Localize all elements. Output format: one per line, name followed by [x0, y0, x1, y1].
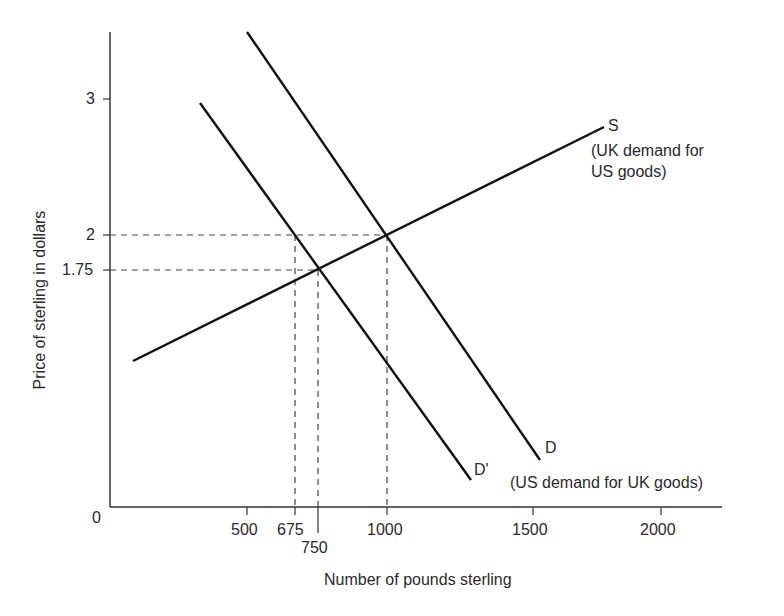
y-tick-label-3: 3 [86, 91, 95, 107]
s-curve-desc-line1: (UK demand for [591, 143, 704, 159]
x-tick-label-1500: 1500 [512, 522, 548, 538]
y-tick-label-2: 2 [86, 227, 95, 243]
y-tick-label-1-75: 1.75 [62, 262, 93, 278]
y-axis-title: Price of sterling in dollars [31, 211, 49, 390]
supply-line-s [133, 127, 604, 361]
x-axis-title: Number of pounds sterling [324, 572, 512, 588]
origin-label: 0 [92, 510, 101, 526]
x-tick-label-500: 500 [231, 522, 258, 538]
s-curve-desc-line2: US goods) [591, 164, 667, 180]
demand-line-d [247, 32, 540, 460]
d-prime-curve-label: D' [474, 462, 489, 478]
x-tick-label-675: 675 [277, 522, 304, 538]
x-tick-label-1000: 1000 [367, 522, 403, 538]
d-curve-desc: (US demand for UK goods) [510, 475, 703, 491]
d-curve-label: D [545, 440, 557, 456]
s-curve-label: S [608, 118, 619, 134]
x-tick-label-750: 750 [301, 540, 328, 556]
x-tick-label-2000: 2000 [640, 522, 676, 538]
